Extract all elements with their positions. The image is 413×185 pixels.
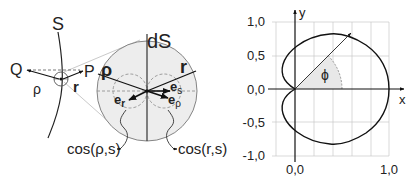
figure: S Q P ρ r dS — [0, 0, 413, 185]
y-tick-1: 1,0 — [247, 14, 265, 29]
angle-label: ϕ — [321, 67, 329, 83]
point-q-label: Q — [10, 61, 22, 78]
y-tick-neg-0-5: -0,5 — [243, 115, 265, 130]
y-axis-label: y — [299, 5, 306, 20]
origin-point — [60, 78, 63, 81]
x-tick-0: 0,0 — [286, 162, 304, 177]
x-tick-1: 1,0 — [380, 162, 398, 177]
cos-r-s-label: cos(r,s) — [178, 140, 227, 157]
y-tick-0: 0,0 — [247, 82, 265, 97]
cardioid-chart: 1,0 0,5 0,0 -0,5 -1,0 0,0 1,0 x y ϕ — [243, 5, 406, 177]
surface-diagram: S Q P ρ r dS — [10, 14, 227, 157]
point-p-label: P — [84, 63, 95, 80]
center-point — [145, 89, 149, 93]
rho-small-label: ρ — [33, 81, 41, 97]
r-big-label: r — [180, 57, 187, 77]
r-small-label: r — [73, 78, 79, 95]
surface-curve — [48, 32, 62, 138]
x-axis-label: x — [399, 92, 406, 107]
element-label: dS — [147, 30, 171, 52]
angle-sector — [295, 56, 342, 89]
rho-big-label: ρ — [101, 60, 112, 80]
surface-label: S — [52, 14, 64, 34]
rho-vector — [27, 70, 59, 79]
y-tick-0-5: 0,5 — [247, 48, 265, 63]
y-tick-neg-1: -1,0 — [243, 148, 265, 163]
cos-rho-s-label: cos(ρ,s) — [67, 140, 121, 157]
